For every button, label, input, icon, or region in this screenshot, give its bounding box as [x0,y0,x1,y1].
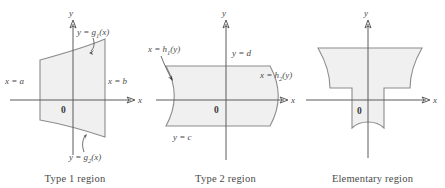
label-y-equals-g2-x: y = g2(x) [68,152,101,164]
h2-suffix: (y) [282,70,292,80]
label-x-equals-h2-y: x = h2(y) [259,70,292,82]
g2-leader-line [83,136,85,152]
svg-text:x = h1(y): x = h1(y) [148,44,180,56]
x-axis-label: x [432,95,437,105]
panel-type-2-region: y x 0 y = d y = c x = h1(y) x = h2(y) [148,0,303,188]
label-x-equals-b: x = b [107,76,128,86]
svg-text:y = g1(x): y = g1(x) [76,27,109,39]
origin-label: 0 [61,105,66,115]
y-axis-label: y [221,8,226,18]
type-2-diagram: y x 0 y = d y = c x = h1(y) x = h2(y) [148,0,303,170]
label-x-equals-h1-y: x = h1(y) [148,44,180,56]
caption-type-1: Type 1 region [0,173,150,184]
g2-prefix: y = g [68,152,89,162]
label-y-equals-d: y = d [231,48,252,58]
h1-prefix: x = h [148,44,168,54]
label-y-equals-c: y = c [172,132,192,142]
panel-elementary-region: y x 0 Elementary region [300,0,445,188]
label-x-equals-a: x = a [4,76,25,86]
label-y-equals-g1-x: y = g1(x) [76,27,109,39]
panel-type-1-region: y x 0 x = a x = b y = g1(x) y = g2(x) [0,0,150,188]
caption-elementary: Elementary region [300,173,445,184]
type-1-diagram: y x 0 x = a x = b y = g1(x) y = g2(x) [0,0,150,170]
g2-suffix: (x) [91,152,101,162]
origin-label: 0 [214,105,219,115]
y-axis-label: y [363,8,368,18]
caption-type-2: Type 2 region [148,173,303,184]
g1-prefix: y = g [76,27,97,37]
y-axis-label: y [68,8,73,18]
x-axis-label: x [137,95,142,105]
origin-label: 0 [357,106,362,116]
svg-text:x = h2(y): x = h2(y) [259,70,292,82]
h1-suffix: (y) [170,44,180,54]
regions-of-integration-figure: y x 0 x = a x = b y = g1(x) y = g2(x) [0,0,445,188]
elementary-diagram: y x 0 [300,0,445,170]
svg-text:y = g2(x): y = g2(x) [68,152,101,164]
x-axis-label: x [290,95,295,105]
g1-suffix: (x) [99,27,109,37]
elementary-shaded-region [318,48,422,128]
h2-prefix: x = h [259,70,280,80]
